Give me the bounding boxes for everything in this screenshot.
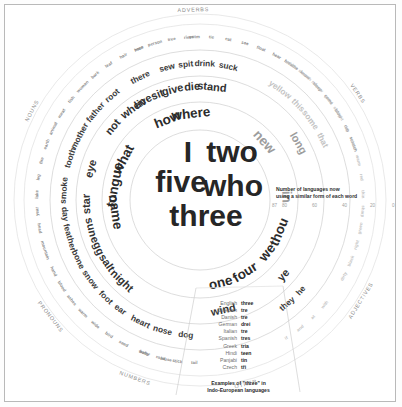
scale-tick: 0 xyxy=(392,203,395,208)
language-name: Greek xyxy=(193,343,241,350)
center-word: two xyxy=(206,135,258,168)
ring-word: day xyxy=(60,206,71,222)
language-name: Swedish xyxy=(193,307,241,314)
center-word: five xyxy=(155,165,207,198)
category-label-numbers: NUMBERS xyxy=(119,370,152,387)
value-legend: Number of languages now using a similar … xyxy=(276,186,396,200)
ring-word: one xyxy=(207,272,234,292)
ring-word: fire xyxy=(38,156,45,164)
ring-word: spit xyxy=(178,58,194,70)
language-row: Swedishtre xyxy=(193,307,271,314)
ring-word: mother xyxy=(68,120,91,150)
language-word: teen xyxy=(241,350,251,357)
language-examples-table: EnglishthreeSwedishtreDanishtreGermandre… xyxy=(193,300,271,371)
ring-word: leaf xyxy=(104,60,114,69)
ring-word: short xyxy=(349,138,358,151)
ring-word: nose xyxy=(152,322,174,337)
ring-word: eat xyxy=(225,36,233,42)
ring-word: tooth xyxy=(62,146,78,169)
ring-word: wide xyxy=(89,319,101,330)
ring-word: heart xyxy=(129,313,152,331)
center-word: I xyxy=(184,135,192,168)
ring-word: fish xyxy=(67,95,76,104)
scale-tick: 40 xyxy=(342,203,347,208)
category-label-nouns: NOUNS xyxy=(24,99,40,123)
value-scale-ticks: 87806040200 xyxy=(272,203,398,213)
ring-word: with xyxy=(319,299,329,310)
language-word: three xyxy=(241,300,253,307)
caption-line1: Examples of "three" in xyxy=(186,380,291,387)
ring-word: sew xyxy=(158,60,176,74)
ring-word: ye xyxy=(275,266,292,283)
ring-word: stand xyxy=(197,79,227,94)
ring-word: there xyxy=(129,68,152,86)
ring-word: some xyxy=(300,108,321,132)
ring-word: at xyxy=(310,313,317,320)
center-word: three xyxy=(169,199,242,232)
ring-word: leg xyxy=(35,173,41,180)
ring-word: name xyxy=(106,193,126,230)
ring-word: smooth xyxy=(297,68,313,82)
ring-word: warm xyxy=(77,306,89,319)
language-word: drei xyxy=(241,321,250,328)
language-row: Greektria xyxy=(193,343,271,350)
language-word: tre xyxy=(241,328,248,335)
ring-word: right xyxy=(353,239,361,250)
ring-word: black xyxy=(346,254,355,267)
scale-tick: 87 xyxy=(272,203,277,208)
ring-word: seed xyxy=(118,339,129,348)
center-word: who xyxy=(202,169,263,202)
scale-tick: 20 xyxy=(370,203,375,208)
ring-word: swim xyxy=(189,34,200,39)
language-row: Spanishtres xyxy=(193,335,271,342)
ring-word: four xyxy=(230,258,261,285)
language-row: Englishthree xyxy=(193,300,271,307)
language-word: tria xyxy=(241,343,249,350)
ring-word: year xyxy=(34,206,40,216)
ring-word: hair xyxy=(119,52,129,60)
ring-word: hear xyxy=(271,51,282,60)
language-table-caption: Examples of "three" in Indo-European lan… xyxy=(186,380,291,394)
ring-word: red xyxy=(359,174,365,182)
ring-word: head xyxy=(36,223,43,234)
ring-word: drink xyxy=(194,58,215,69)
ring-word: animal xyxy=(48,121,59,136)
ring-word: if xyxy=(284,335,289,341)
ring-word: person xyxy=(147,38,163,47)
category-label-verbs: VERBS xyxy=(349,82,367,104)
ring-word: float xyxy=(256,44,267,52)
scale-tick: 60 xyxy=(312,203,317,208)
figure-frame: whathowwheretonguenamewefouronethounewin… xyxy=(0,0,402,407)
ring-word: green xyxy=(357,222,364,235)
ring-word: and xyxy=(296,324,305,333)
language-word: tři xyxy=(241,364,246,371)
language-name: Italian xyxy=(193,328,241,335)
center-words: Itwofivewhothree xyxy=(155,135,263,232)
category-label-adverbs: ADVERBS xyxy=(177,6,209,13)
language-name: Czech xyxy=(193,364,241,371)
ring-word: hand xyxy=(49,265,58,277)
ring-word: bone xyxy=(70,248,88,271)
ring-word: long xyxy=(288,130,310,156)
ring-word: yellow xyxy=(267,78,294,101)
legend-title-line1: Number of languages now xyxy=(276,186,396,193)
ring-word: dry xyxy=(343,124,351,133)
scale-tick: 80 xyxy=(282,203,287,208)
language-name: Danish xyxy=(193,314,241,321)
ring-word: blood xyxy=(57,280,68,293)
caption-line2: Indo-European languages xyxy=(186,387,291,394)
ring-word: father xyxy=(84,99,107,124)
ring-word: tree xyxy=(167,36,176,42)
category-label-pronouns: PRONOUNS xyxy=(37,300,65,334)
language-word: tre xyxy=(241,307,248,314)
language-name: Hindi xyxy=(193,350,241,357)
ring-word: mountain xyxy=(40,240,51,261)
ring-word: bird xyxy=(104,330,114,339)
language-row: Italiantre xyxy=(193,328,271,335)
ring-word: tie xyxy=(209,34,215,39)
ring-word: narrow xyxy=(311,80,325,94)
language-row: Hinditeen xyxy=(193,350,271,357)
ring-word: root xyxy=(103,86,122,104)
language-name: German xyxy=(193,321,241,328)
ring-word: ear xyxy=(112,302,129,318)
